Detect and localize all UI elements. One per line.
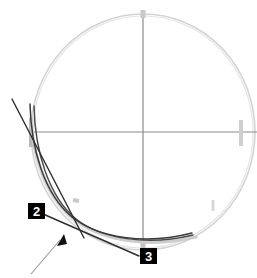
leader-arrow	[31, 234, 67, 274]
tangent-upper-left	[12, 99, 84, 238]
curve-gray-shadow	[31, 118, 196, 242]
figure-canvas: 2 3	[0, 0, 257, 278]
diagram-svg	[0, 0, 257, 278]
callout-label-3[interactable]: 3	[140, 248, 157, 264]
tangent-lower	[43, 214, 139, 256]
callout-label-2[interactable]: 2	[28, 203, 45, 219]
leader-arrow-shaft	[31, 240, 60, 274]
tick-lower-left-icon	[73, 200, 79, 201]
leader-arrow-head-icon	[57, 234, 67, 246]
